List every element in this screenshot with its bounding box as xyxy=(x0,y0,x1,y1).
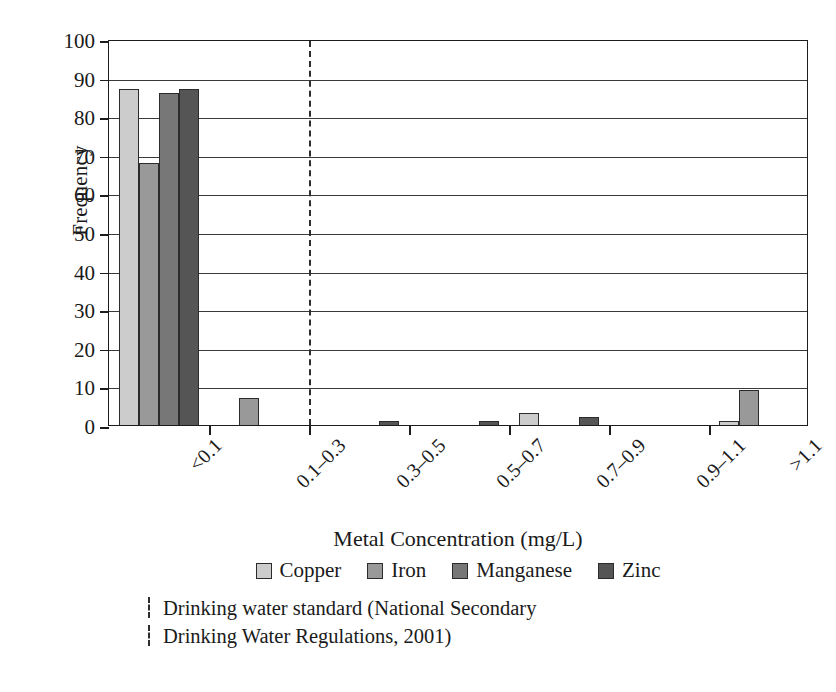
x-tick-labels: <0.10.1–0.30.3–0.50.5–0.70.7–0.90.9–1.1>… xyxy=(108,428,808,520)
x-tick-label: 0.5–0.7 xyxy=(492,434,551,493)
bar-group xyxy=(209,41,309,425)
y-tick-label: 60 xyxy=(74,185,95,206)
bar-group xyxy=(109,41,209,425)
dashed-line-icon xyxy=(148,625,150,646)
bar-group xyxy=(709,41,809,425)
x-tick-label: 0.3–0.5 xyxy=(392,434,451,493)
y-tick-mark xyxy=(100,388,109,390)
x-tick-label: >1.1 xyxy=(785,434,827,476)
footnote-line-2: Drinking Water Regulations, 2001) xyxy=(148,622,788,650)
y-tick-label: 20 xyxy=(74,339,95,360)
x-tick-label: 0.1–0.3 xyxy=(292,434,351,493)
legend-label: Copper xyxy=(280,558,342,583)
bar xyxy=(159,93,179,425)
y-tick-mark xyxy=(100,195,109,197)
bar xyxy=(739,390,759,425)
bar-group xyxy=(509,41,609,425)
standard-threshold-line xyxy=(309,41,311,425)
legend-label: Zinc xyxy=(622,558,660,583)
x-tick-label: 0.7–0.9 xyxy=(592,434,651,493)
chart-figure: Frequency 0102030405060708090100 <0.10.1… xyxy=(0,0,836,692)
bar xyxy=(119,89,139,425)
y-tick-label: 10 xyxy=(74,378,95,399)
y-tick-label: 40 xyxy=(74,262,95,283)
legend-item: Manganese xyxy=(452,558,572,583)
legend-swatch-icon xyxy=(598,563,614,579)
y-tick-mark xyxy=(100,350,109,352)
bar-group xyxy=(409,41,509,425)
chart-footnote: Drinking water standard (National Second… xyxy=(148,594,788,651)
footnote-line-1: Drinking water standard (National Second… xyxy=(148,594,788,622)
y-tick-mark xyxy=(100,311,109,313)
y-tick-mark xyxy=(100,80,109,82)
legend-label: Iron xyxy=(391,558,426,583)
y-tick-mark xyxy=(100,234,109,236)
y-tick-mark xyxy=(100,157,109,159)
bar xyxy=(239,398,259,425)
y-tick-label: 70 xyxy=(74,146,95,167)
legend-swatch-icon xyxy=(256,563,272,579)
y-tick-mark xyxy=(100,118,109,120)
x-tick-label: <0.1 xyxy=(185,434,227,476)
bar xyxy=(179,89,199,425)
legend-swatch-icon xyxy=(452,563,468,579)
bar xyxy=(579,417,599,425)
bar-group xyxy=(309,41,409,425)
y-tick-label: 0 xyxy=(85,417,96,438)
y-tick-label: 30 xyxy=(74,301,95,322)
bar xyxy=(719,421,739,425)
bar xyxy=(379,421,399,425)
y-tick-label: 100 xyxy=(64,31,96,52)
y-tick-label: 90 xyxy=(74,69,95,90)
x-axis-title: Metal Concentration (mg/L) xyxy=(108,526,808,552)
footnote-text-1: Drinking water standard (National Second… xyxy=(163,594,536,622)
chart-legend: CopperIronManganeseZinc xyxy=(108,558,808,583)
dashed-line-icon xyxy=(148,597,150,618)
y-tick-label: 50 xyxy=(74,224,95,245)
y-tick-label: 80 xyxy=(74,108,95,129)
x-tick-label: 0.9–1.1 xyxy=(692,434,751,493)
legend-item: Iron xyxy=(367,558,426,583)
bar xyxy=(479,421,499,425)
bar-group xyxy=(609,41,709,425)
legend-label: Manganese xyxy=(476,558,572,583)
y-tick-mark xyxy=(100,41,109,43)
bar xyxy=(519,413,539,425)
legend-item: Copper xyxy=(256,558,342,583)
footnote-text-2: Drinking Water Regulations, 2001) xyxy=(163,622,451,650)
legend-item: Zinc xyxy=(598,558,660,583)
legend-swatch-icon xyxy=(367,563,383,579)
plot-area: 0102030405060708090100 xyxy=(108,40,808,426)
bar xyxy=(139,163,159,425)
y-tick-mark xyxy=(100,273,109,275)
